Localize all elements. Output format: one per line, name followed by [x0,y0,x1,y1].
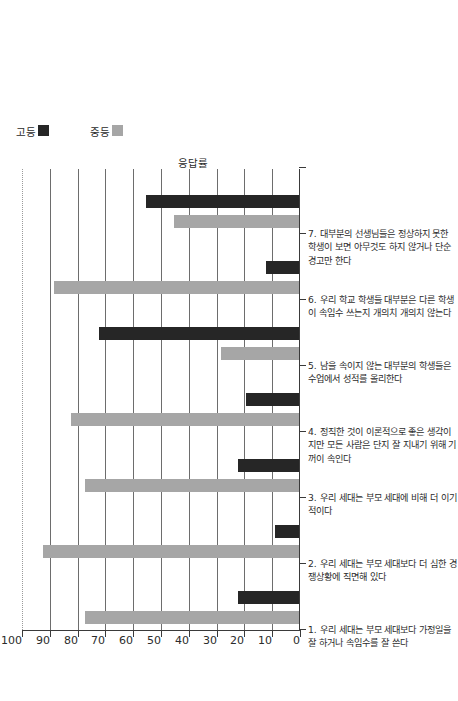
y-axis-tick-label: 70 [91,634,105,647]
y-axis-tick [300,630,301,637]
y-axis-tick [244,630,245,637]
bar-고등[interactable] [146,195,299,208]
y-axis-title: 응답률 [178,155,208,170]
y-axis-tick-label: 0 [293,634,300,647]
x-axis-tick [299,497,306,498]
y-axis-tick [272,630,273,637]
y-axis-tick-label: 50 [147,634,161,647]
y-axis-tick [22,630,23,637]
bar-고등[interactable] [99,327,299,340]
y-axis-tick [161,630,162,637]
plot-area: 0102030405060708090100 [22,169,300,631]
x-axis-category-label: 1. 우리 세대는 부모 세대보다 가정일을 잘 하거나 속임수를 잘 쓴다 [308,623,458,650]
y-axis-tick-label: 100 [1,634,22,647]
y-axis-tick-label: 30 [203,634,217,647]
bar-중등[interactable] [43,545,299,558]
bar-중등[interactable] [85,479,299,492]
legend-swatch [112,126,123,137]
x-axis-tick [299,233,306,234]
bar-고등[interactable] [266,261,299,274]
legend-label: 고등 [16,124,36,139]
y-axis-tick-label: 80 [64,634,78,647]
x-axis-tick [299,299,306,300]
legend-item[interactable]: 고등 [18,121,49,141]
x-axis-category-label: 6. 우리 학교 학생들 대부분은 다른 학생이 속임수 쓰는지 개의치 개의치… [308,293,458,320]
legend-swatch [38,126,49,137]
bar-중등[interactable] [174,215,299,228]
bar-중등[interactable] [221,347,299,360]
x-axis-tick [299,365,306,366]
legend-item[interactable]: 중등 [92,121,123,141]
y-axis-tick [133,630,134,637]
y-axis-tick-label: 60 [119,634,133,647]
y-axis-tick-label: 90 [36,634,50,647]
legend-label: 중등 [90,124,110,139]
x-axis-tick [299,563,306,564]
bar-고등[interactable] [238,459,299,472]
x-axis-category-label: 3. 우리 세대는 부모 세대에 비해 더 이기적이다 [308,491,458,518]
bar-중등[interactable] [85,611,299,624]
bar-group [22,234,299,300]
y-axis-tick-label: 40 [175,634,189,647]
bar-group [22,432,299,498]
bar-중등[interactable] [71,413,299,426]
y-axis-tick-label: 20 [230,634,244,647]
bar-group [22,498,299,564]
x-axis-tick [299,629,306,630]
bar-중등[interactable] [54,281,299,294]
y-axis-tick-label: 10 [258,634,272,647]
bar-고등[interactable] [246,393,299,406]
x-axis-category-label: 2. 우리 세대는 부모 세대보다 더 심한 경쟁상황에 직면해 있다 [308,557,458,584]
x-axis-category-labels: 1. 우리 세대는 부모 세대보다 가정일을 잘 하거나 속임수를 잘 쓴다2.… [308,169,342,631]
bar-group [22,168,299,234]
x-axis-category-label: 5. 남을 속이지 않는 대부분의 학생들은 수업에서 성적를 올리한다 [308,359,458,386]
x-axis-category-label: 7. 대부분의 선생님들은 정상하지 못한 학생이 보면 아무것도 하지 않거나… [308,227,458,267]
y-axis-tick [105,630,106,637]
bar-group [22,366,299,432]
bar-고등[interactable] [238,591,299,604]
x-axis-tick [299,167,306,168]
x-axis-category-label: 4. 정직한 것이 이론적으로 좋은 생각이지만 모든 사람은 단지 잘 지내기… [308,425,458,465]
bar-group [22,564,299,630]
x-axis-tick [299,431,306,432]
bar-group [22,300,299,366]
bar-고등[interactable] [275,525,299,538]
